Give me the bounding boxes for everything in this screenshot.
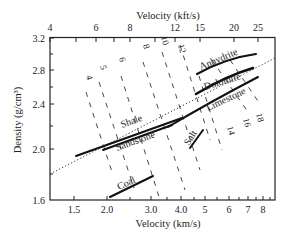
left-axis-labels: 3.2 2.8 2.4 2.0 1.6: [33, 33, 46, 206]
bottom-tick-label: 4.0: [175, 204, 188, 215]
top-axis-ticks: [50, 38, 258, 43]
bottom-tick-label: 2.0: [101, 204, 114, 215]
sandstone-label: Sandstone: [114, 128, 157, 153]
density-velocity-chart: 4 6 8 12 15 20 25 Velocity (kft/s) 1.5 2…: [0, 0, 291, 243]
bottom-tick-label: 3.0: [145, 204, 158, 215]
iso-label: 5: [98, 64, 109, 71]
top-tick-label: 15: [195, 22, 205, 33]
bottom-axis-ticks: [74, 196, 270, 200]
left-tick-label: 2.0: [33, 144, 46, 155]
top-tick-label: 4: [48, 22, 53, 33]
iso-label: 8: [141, 43, 152, 50]
iso-label: 4: [84, 74, 95, 81]
iso-label: 14: [225, 125, 237, 137]
bottom-tick-label: 6: [227, 204, 232, 215]
bottom-tick-label: 7: [246, 204, 251, 215]
top-tick-label: 8: [128, 22, 133, 33]
iso-label: 10: [159, 35, 171, 47]
iso-label: 18: [254, 112, 266, 124]
top-tick-label: 25: [253, 22, 263, 33]
gardner-trend-line: [50, 58, 275, 174]
iso-impedance-lines: [86, 45, 260, 200]
salt-label: Salt: [181, 128, 199, 147]
top-tick-label: 20: [229, 22, 239, 33]
bottom-tick-label: 1.5: [68, 204, 81, 215]
top-tick-label: 12: [170, 22, 180, 33]
iso-label: 12: [176, 43, 188, 54]
left-tick-label: 2.8: [33, 65, 46, 76]
bottom-tick-label: 8: [261, 204, 266, 215]
bottom-axis-labels: 1.5 2.0 3.0 4.0 5 6 7 8: [68, 204, 266, 215]
left-tick-label: 1.6: [33, 195, 46, 206]
shale-label: Shale: [119, 112, 144, 130]
left-tick-label: 2.4: [33, 99, 46, 110]
top-axis-labels: 4 6 8 12 15 20 25: [48, 22, 264, 33]
top-tick-label: 6: [94, 22, 99, 33]
bottom-tick-label: 5: [203, 204, 208, 215]
bottom-axis-title: Velocity (km/s): [135, 218, 201, 230]
iso-label: 6: [117, 56, 128, 63]
iso-label: 16: [241, 117, 253, 129]
top-axis-title: Velocity (kft/s): [136, 10, 200, 22]
left-axis-title: Density (g/cm³): [12, 86, 24, 153]
left-tick-label: 3.2: [33, 33, 46, 44]
